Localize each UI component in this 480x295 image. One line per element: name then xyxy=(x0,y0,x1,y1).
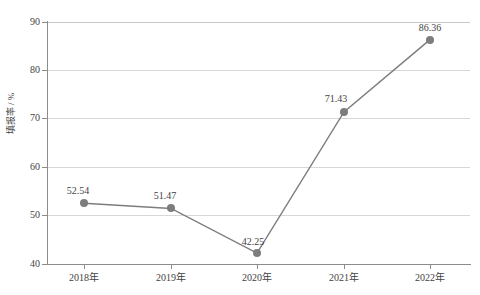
x-tick-label-2021: 2021年 xyxy=(304,272,384,284)
x-tick-mark-2020 xyxy=(257,265,258,269)
x-tick-mark-2019 xyxy=(171,265,172,269)
x-tick-mark-2022 xyxy=(430,265,431,269)
plot-area xyxy=(47,22,470,264)
x-tick-label-2020: 2020年 xyxy=(217,272,297,284)
y-axis-line xyxy=(47,21,48,265)
x-axis-line xyxy=(47,264,471,265)
y-tick-label-80: 80 xyxy=(0,65,40,75)
x-tick-mark-2021 xyxy=(344,265,345,269)
data-label-2022: 86.36 xyxy=(400,23,460,33)
y-tick-label-40: 40 xyxy=(0,259,40,269)
y-tick-label-50: 50 xyxy=(0,210,40,220)
data-label-2019: 51.47 xyxy=(135,191,195,201)
data-label-2021: 71.43 xyxy=(306,94,366,104)
x-tick-label-2019: 2019年 xyxy=(131,272,211,284)
gridline-70 xyxy=(47,118,470,119)
x-tick-mark-2018 xyxy=(84,265,85,269)
y-tick-label-70: 70 xyxy=(0,113,40,123)
y-tick-label-60: 60 xyxy=(0,162,40,172)
gridline-80 xyxy=(47,70,470,71)
line-chart: 填报率 / % 90 80 70 60 50 40 2018年 2019年 20… xyxy=(0,0,480,295)
data-label-2018: 52.54 xyxy=(48,186,108,196)
data-label-2020: 42.25 xyxy=(223,237,283,247)
x-tick-label-2022: 2022年 xyxy=(390,272,470,284)
data-point-2022 xyxy=(426,36,434,44)
data-point-2021 xyxy=(340,108,348,116)
x-tick-label-2018: 2018年 xyxy=(44,272,124,284)
gridline-60 xyxy=(47,167,470,168)
y-tick-label-90: 90 xyxy=(0,17,40,27)
gridline-50 xyxy=(47,215,470,216)
